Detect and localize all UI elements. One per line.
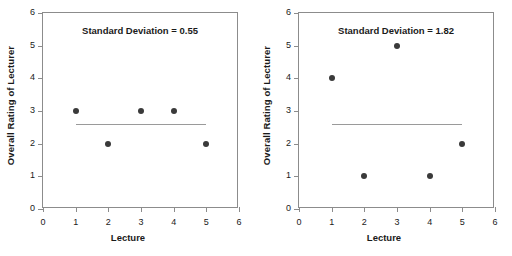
x-axis-tick	[299, 207, 300, 212]
x-axis-tick	[141, 207, 142, 212]
x-axis-tick-label: 6	[229, 218, 249, 227]
y-axis-tick-label: 1	[273, 171, 291, 180]
x-axis-title: Lecture	[256, 232, 512, 243]
y-axis-tick	[294, 176, 299, 177]
data-point	[329, 75, 335, 81]
x-axis-tick-label: 4	[420, 218, 440, 227]
plot-area: 01234560123456	[42, 12, 238, 208]
x-axis-tick	[108, 207, 109, 212]
x-axis-tick-label: 4	[164, 218, 184, 227]
data-point	[394, 43, 400, 49]
y-axis-tick-label: 2	[17, 139, 35, 148]
x-axis-tick	[462, 207, 463, 212]
y-axis-tick	[38, 46, 43, 47]
y-axis-tick	[38, 13, 43, 14]
y-axis-tick-label: 4	[273, 73, 291, 82]
x-axis-tick-label: 0	[33, 218, 53, 227]
y-axis-tick-label: 3	[273, 106, 291, 115]
x-axis-tick-label: 6	[485, 218, 505, 227]
mean-reference-line	[76, 124, 207, 125]
x-axis-tick-label: 3	[387, 218, 407, 227]
x-axis-tick-label: 0	[289, 218, 309, 227]
data-point	[138, 108, 144, 114]
y-axis-tick	[38, 176, 43, 177]
data-point	[203, 141, 209, 147]
y-axis-tick	[38, 78, 43, 79]
x-axis-tick-label: 2	[354, 218, 374, 227]
data-point	[427, 173, 433, 179]
y-axis-tick-label: 4	[17, 73, 35, 82]
x-axis-tick-label: 3	[131, 218, 151, 227]
y-axis-tick	[294, 144, 299, 145]
x-axis-tick-label: 1	[66, 218, 86, 227]
data-point	[105, 141, 111, 147]
x-axis-tick	[206, 207, 207, 212]
x-axis-tick	[239, 207, 240, 212]
y-axis-tick-label: 1	[17, 171, 35, 180]
y-axis-tick-label: 3	[17, 106, 35, 115]
annotation-std-dev: Standard Deviation = 1.82	[338, 24, 454, 35]
x-axis-tick	[495, 207, 496, 212]
y-axis-tick	[294, 46, 299, 47]
x-axis-tick	[397, 207, 398, 212]
mean-reference-line	[332, 124, 463, 125]
y-axis-title-text: Overall Rating of Lecturer	[262, 45, 273, 164]
y-axis-tick-label: 0	[273, 204, 291, 213]
x-axis-tick-label: 5	[452, 218, 472, 227]
data-point	[361, 173, 367, 179]
y-axis-tick-label: 5	[17, 41, 35, 50]
y-axis-tick	[38, 111, 43, 112]
x-axis-tick	[332, 207, 333, 212]
data-point	[171, 108, 177, 114]
x-axis-tick	[174, 207, 175, 212]
annotation-std-dev: Standard Deviation = 0.55	[82, 24, 198, 35]
right-panel: Overall Rating of Lecturer Lecture 01234…	[256, 0, 512, 256]
y-axis-tick-label: 6	[17, 8, 35, 17]
y-axis-tick-label: 0	[17, 204, 35, 213]
y-axis-tick	[294, 78, 299, 79]
x-axis-tick-label: 2	[98, 218, 118, 227]
y-axis-tick	[38, 144, 43, 145]
y-axis-tick-label: 2	[273, 139, 291, 148]
scatter-plot-figure: Overall Rating of Lecturer Lecture 01234…	[0, 0, 512, 256]
plot-area: 01234560123456	[298, 12, 494, 208]
y-axis-tick	[294, 13, 299, 14]
x-axis-tick	[43, 207, 44, 212]
x-axis-tick	[430, 207, 431, 212]
y-axis-tick	[294, 111, 299, 112]
y-axis-tick-label: 6	[273, 8, 291, 17]
data-point	[459, 141, 465, 147]
x-axis-title: Lecture	[0, 232, 256, 243]
x-axis-tick-label: 1	[322, 218, 342, 227]
left-panel: Overall Rating of Lecturer Lecture 01234…	[0, 0, 256, 256]
data-point	[73, 108, 79, 114]
x-axis-tick-label: 5	[196, 218, 216, 227]
x-axis-tick	[364, 207, 365, 212]
x-axis-tick	[76, 207, 77, 212]
y-axis-tick-label: 5	[273, 41, 291, 50]
y-axis-title-text: Overall Rating of Lecturer	[6, 45, 17, 164]
